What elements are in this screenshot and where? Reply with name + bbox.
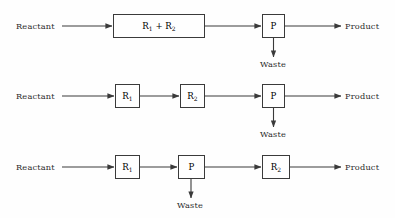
row-1-waste-label: Waste — [260, 60, 286, 68]
row-3-waste-label: Waste — [177, 201, 203, 209]
row-2-node-r2: R2 — [180, 84, 205, 108]
row-1-node-r1r2: R1 + R2 — [113, 14, 205, 38]
row-3-node-r2: R2 — [262, 155, 290, 179]
row-3-node-r1-label: R1 — [122, 162, 132, 172]
row-2-node-r1-label: R1 — [122, 91, 132, 101]
row-1-node-p: P — [262, 14, 285, 38]
row-3-product-label: Product — [345, 163, 379, 171]
row-3-node-p-label: P — [189, 162, 195, 172]
row-2-node-r2-label: R2 — [187, 91, 197, 101]
process-flow-diagram: Reactant R1 + R2 P Waste Product Reactan… — [0, 0, 395, 218]
row-3-node-r2-label: R2 — [271, 162, 281, 172]
row-3-reactant-label: Reactant — [16, 163, 55, 171]
row-1-reactant-label: Reactant — [16, 22, 55, 30]
row-2-node-r1: R1 — [115, 84, 140, 108]
row-3-node-r1: R1 — [115, 155, 140, 179]
row-2-node-p-label: P — [271, 91, 277, 101]
row-1-product-label: Product — [345, 22, 379, 30]
row-2-product-label: Product — [345, 92, 379, 100]
row-2-reactant-label: Reactant — [16, 92, 55, 100]
row-1-node-r1r2-label: R1 + R2 — [142, 21, 175, 31]
row-3-node-p: P — [178, 155, 205, 179]
row-1-node-p-label: P — [271, 21, 277, 31]
row-2-node-p: P — [262, 84, 285, 108]
row-2-waste-label: Waste — [260, 130, 286, 138]
